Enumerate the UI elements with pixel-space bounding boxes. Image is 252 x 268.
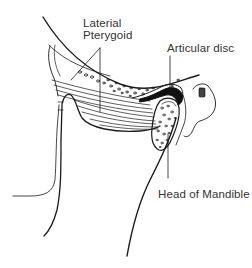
label-articular-disc: Articular disc (167, 42, 234, 54)
articular-disc (140, 88, 183, 105)
label-lateral-pterygoid-line2: Pterygoid (83, 29, 132, 41)
label-head-of-mandible: Head of Mandible (158, 188, 250, 200)
pterygoid-plate-inner (54, 45, 60, 76)
lateral-pterygoid-pointer-a (71, 48, 100, 80)
label-lateral-pterygoid: Laterial Pterygoid (83, 17, 132, 41)
lateral-pterygoid-fibres (52, 80, 158, 129)
pharyngeal-wall-line (13, 105, 59, 196)
external-auditory-meatus (199, 88, 205, 97)
tmj-diagram: Laterial Pterygoid Articular disc Head o… (0, 0, 252, 268)
pharyngeal-wall-line-2 (44, 105, 62, 236)
label-lateral-pterygoid-line1: Laterial (83, 17, 132, 29)
pterygoid-plate-outer (49, 46, 58, 96)
